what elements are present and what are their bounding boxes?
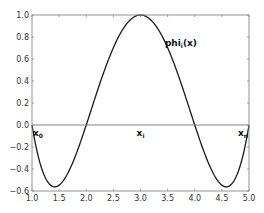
y-tick-label: 0.0 — [16, 121, 29, 130]
y-tick-label: 0.8 — [16, 33, 29, 42]
x-tick-label: 4.0 — [188, 194, 201, 203]
annotations: phii(x)x0xixn — [33, 38, 248, 139]
x-tick-label: 1.5 — [53, 194, 66, 203]
x-tick-label: 3.5 — [161, 194, 174, 203]
y-axis-ticks: 1.00.80.60.40.20.0−0.2−0.4−0.6 — [10, 11, 249, 196]
plot-frame — [32, 15, 249, 191]
plot-border — [32, 15, 249, 191]
y-tick-label: −0.6 — [10, 187, 29, 196]
y-tick-label: 0.4 — [16, 77, 29, 86]
y-tick-label: −0.2 — [10, 143, 29, 152]
x-tick-label: 5.0 — [243, 194, 256, 203]
x-tick-label: 2.0 — [80, 194, 93, 203]
node-label: xi — [137, 128, 145, 139]
x-axis-ticks: 1.01.52.02.53.03.54.04.55.0 — [26, 15, 256, 203]
x-tick-label: 4.5 — [216, 194, 229, 203]
x-tick-label: 2.5 — [107, 194, 120, 203]
node-label: x0 — [33, 128, 43, 139]
line-chart: 1.01.52.02.53.03.54.04.55.0 1.00.80.60.4… — [0, 0, 264, 213]
y-tick-label: 1.0 — [16, 11, 29, 20]
phi-curve-path — [32, 15, 249, 187]
y-tick-label: 0.6 — [16, 55, 29, 64]
node-label: xn — [238, 128, 248, 139]
y-tick-label: 0.2 — [16, 99, 29, 108]
phi-curve — [32, 15, 249, 187]
x-tick-label: 3.0 — [134, 194, 147, 203]
series-label: phii(x) — [165, 38, 197, 49]
y-tick-label: −0.4 — [10, 165, 29, 174]
